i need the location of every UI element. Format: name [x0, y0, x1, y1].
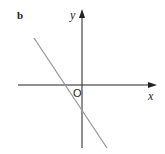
y-axis-arrow-icon: [79, 9, 85, 18]
graph-figure: b y x O: [0, 0, 165, 154]
x-axis-arrow-icon: [148, 82, 157, 88]
origin-label: O: [73, 88, 82, 99]
graph-canvas: [0, 0, 165, 154]
panel-label: b: [17, 10, 23, 21]
x-axis-label: x: [148, 90, 153, 102]
linear-function-line: [34, 38, 107, 148]
y-axis-label: y: [70, 9, 75, 21]
